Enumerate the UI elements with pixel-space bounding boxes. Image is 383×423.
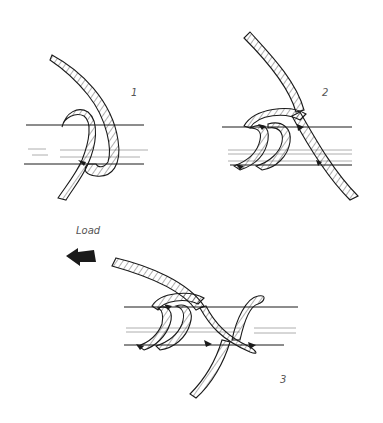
knot-diagram: 1 2 3 Load: [0, 0, 383, 423]
knot-illustration: [0, 0, 383, 423]
arrow-left-icon: [66, 248, 96, 266]
load-label: Load: [76, 226, 100, 236]
rope-2: [234, 32, 358, 200]
step-2-label: 2: [322, 88, 328, 98]
step-1-illustration: [24, 55, 148, 200]
rope-1: [50, 55, 119, 200]
step-1-label: 1: [131, 88, 137, 98]
step-3-label: 3: [280, 375, 286, 385]
step-2-illustration: [222, 32, 358, 200]
step-3-illustration: [66, 248, 298, 398]
